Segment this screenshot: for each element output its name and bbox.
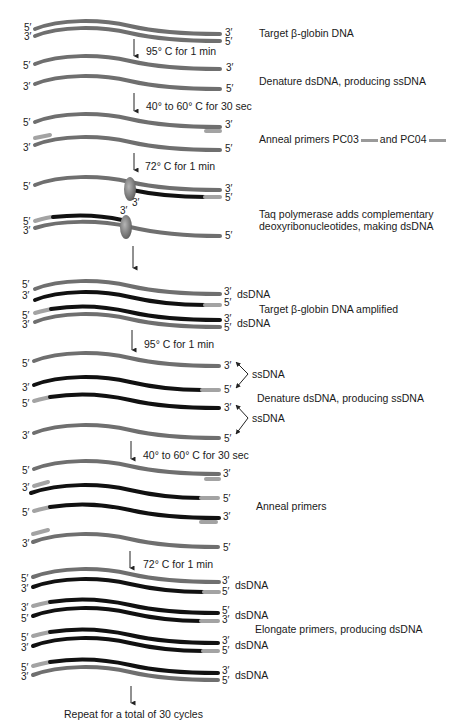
denatured-ssDNA-2 <box>34 353 219 438</box>
dsDNA-tag: dsDNA <box>237 288 270 300</box>
end-label: 3′ <box>22 431 29 441</box>
end-label: 5′ <box>224 434 231 444</box>
end-label: 5′ <box>22 466 29 476</box>
end-label: 5′ <box>23 118 30 128</box>
ssDNA-tag: ssDNA <box>252 412 285 424</box>
end-label: 3′ <box>23 82 30 92</box>
ssDNA-bracket-arrows <box>236 362 248 434</box>
dsDNA-tag: dsDNA <box>235 609 268 621</box>
end-label: 5′ <box>222 587 229 597</box>
end-label: 3′ <box>23 143 30 153</box>
end-label: 5′ <box>225 193 232 203</box>
end-label: 3′ <box>222 615 229 625</box>
end-label: 5′ <box>21 614 28 624</box>
end-label: 3′ <box>223 512 230 522</box>
step-elongate: Elongate primers, producing dsDNA <box>255 623 423 635</box>
end-label: 3′ <box>226 63 233 73</box>
end-label: 5′ <box>222 646 229 656</box>
end-label: 5′ <box>22 508 29 518</box>
end-label: 5′ <box>225 144 232 154</box>
end-label: 5′ <box>225 231 232 241</box>
end-label: 3′ <box>22 383 29 393</box>
end-label: 5′ <box>223 543 230 553</box>
condition-anneal-1: 40° to 60° C for 30 sec <box>146 100 252 112</box>
end-label: 3′ <box>22 291 29 301</box>
step-target: Target β-globin DNA <box>259 27 354 39</box>
end-label: 5′ <box>22 399 29 409</box>
step-polymerase-2: deoxyribonucleotides, making dsDNA <box>259 220 434 232</box>
amplified-dsDNA <box>35 281 220 327</box>
end-label: 3′ <box>223 469 230 479</box>
end-label: 5′ <box>23 61 30 71</box>
end-label: 3′ <box>21 603 28 613</box>
end-label: 5′ <box>224 298 231 308</box>
step-anneal-text-2: and PC04 <box>380 133 427 145</box>
end-label: 3′ <box>22 539 29 549</box>
end-label: 5′ <box>226 84 233 94</box>
dsDNA-tag: dsDNA <box>235 639 268 651</box>
step-amplified: Target β-globin DNA amplified <box>259 303 398 315</box>
condition-denature-2: 95° C for 1 min <box>144 338 214 350</box>
step-anneal: Anneal primers PC03and PC04 <box>259 133 448 145</box>
end-label: 3′ <box>21 584 28 594</box>
end-label: 5′ <box>224 323 231 333</box>
step-repeat: Repeat for a total of 30 cycles <box>64 708 203 720</box>
end-label: 3′ <box>21 672 28 682</box>
end-label: 5′ <box>22 280 29 290</box>
condition-extend-2: 72° C for 1 min <box>143 558 213 570</box>
taq-polymerase-icon <box>120 215 132 239</box>
ssDNA-tag: ssDNA <box>252 368 285 380</box>
primer-PC03-swatch <box>361 139 378 142</box>
step-denature-2: Denature dsDNA, producing ssDNA <box>257 392 424 404</box>
annealed-primers <box>35 114 220 150</box>
end-label: 3′ <box>23 226 30 236</box>
dsDNA-tag: dsDNA <box>237 317 270 329</box>
condition-extend-1: 72° C for 1 min <box>145 160 215 172</box>
step-anneal-2: Anneal primers <box>256 500 327 512</box>
end-label: 5′ <box>22 359 29 369</box>
end-label: 3′ <box>222 576 229 586</box>
end-label: 3′ <box>132 198 139 208</box>
end-label: 3′ <box>24 32 31 42</box>
end-label: 5′ <box>225 37 232 47</box>
end-label: 3′ <box>21 643 28 653</box>
dsDNA-tag: dsDNA <box>235 669 268 681</box>
step-denature: Denature dsDNA, producing ssDNA <box>259 75 426 87</box>
step-polymerase: Taq polymerase adds complementary <box>259 208 434 220</box>
annealed-primers-2 <box>31 461 219 547</box>
condition-anneal-2: 40° to 60° C for 30 sec <box>143 449 249 461</box>
elongated-dsDNA <box>33 569 219 680</box>
end-label: 3′ <box>22 320 29 330</box>
dsDNA-tag: dsDNA <box>235 579 268 591</box>
end-label: 3′ <box>225 120 232 130</box>
primer-PC04-swatch <box>429 139 446 142</box>
step-anneal-text: Anneal primers PC03 <box>259 133 359 145</box>
end-label: 3′ <box>224 287 231 297</box>
end-label: 3′ <box>22 483 29 493</box>
end-label: 5′ <box>23 182 30 192</box>
end-label: 5′ <box>222 676 229 686</box>
denatured-ssDNA <box>35 56 220 89</box>
end-label: 3′ <box>224 403 231 413</box>
end-label: 5′ <box>224 385 231 395</box>
end-label: 5′ <box>223 494 230 504</box>
condition-denature-1: 95° C for 1 min <box>146 45 216 57</box>
target-dsDNA <box>35 21 220 41</box>
end-label: 3′ <box>120 206 127 216</box>
end-label: 3′ <box>224 361 231 371</box>
